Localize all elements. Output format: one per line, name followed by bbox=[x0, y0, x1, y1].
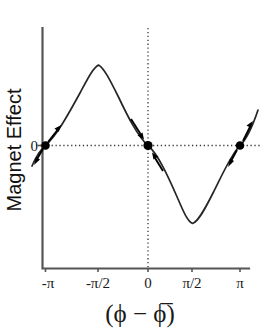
x-tick-label-minus-half-pi: -π/2 bbox=[86, 275, 110, 291]
x-tick-label-zero: 0 bbox=[144, 275, 152, 291]
fixed-point-marker-minus-pi bbox=[41, 141, 50, 150]
x-tick-label-minus-pi: -π bbox=[42, 275, 55, 291]
x-tick-label-pi: π bbox=[236, 275, 244, 291]
x-tick-label-half-pi: π/2 bbox=[182, 275, 201, 291]
y-axis-title: Magnet Effect bbox=[3, 88, 25, 211]
magnet-effect-phase-plot: 0 -π -π/2 0 π/2 π (ϕ − ϕ̅) Magnet Effect bbox=[0, 0, 269, 331]
y-tick-label-0: 0 bbox=[31, 138, 39, 154]
fixed-point-marker-pi bbox=[236, 141, 245, 150]
fixed-point-marker-zero bbox=[143, 141, 152, 150]
x-axis-title: (ϕ − ϕ̅) bbox=[105, 300, 175, 328]
